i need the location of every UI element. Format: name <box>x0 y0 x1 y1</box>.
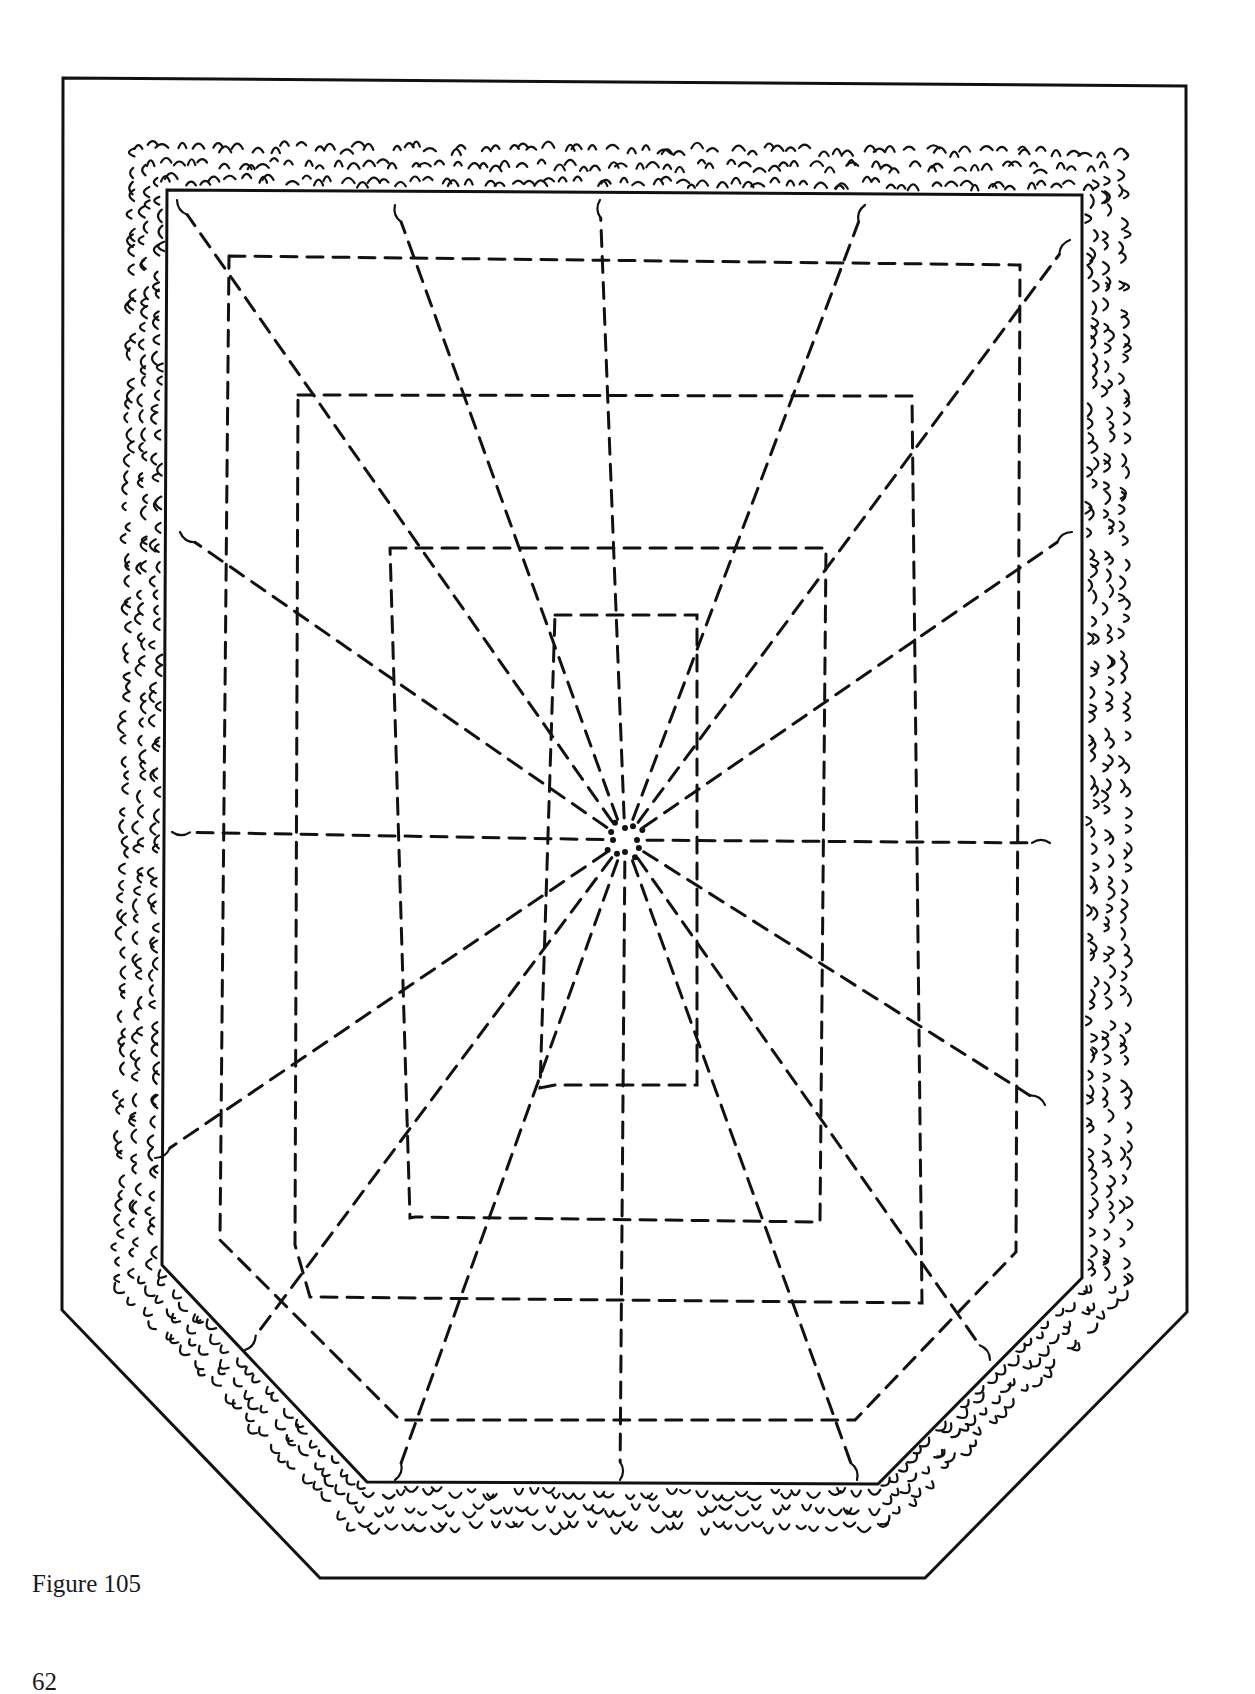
page-number: 62 <box>32 1668 57 1694</box>
figure-caption: Figure 105 <box>32 1570 141 1598</box>
